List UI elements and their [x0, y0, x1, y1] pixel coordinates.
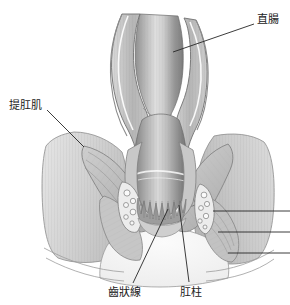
label-anal-columns: 肛柱 — [180, 287, 202, 299]
anatomy-illustration — [0, 0, 290, 305]
leader-rectum — [173, 24, 254, 52]
diagram-canvas: 直腸 提肛肌 齒狀線 肛柱 — [0, 0, 290, 305]
label-rectum: 直腸 — [257, 14, 279, 26]
anal-canal-lumen — [134, 114, 187, 217]
label-dentate-line: 齒狀線 — [108, 287, 141, 299]
label-levator-ani: 提肛肌 — [9, 100, 42, 112]
